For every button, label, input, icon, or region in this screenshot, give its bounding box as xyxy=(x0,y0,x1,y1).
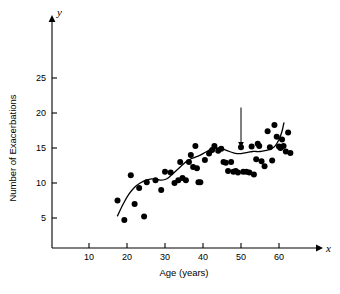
y-tick-label: 10 xyxy=(36,178,46,188)
data-point xyxy=(192,143,198,149)
y-axis-ticks: 510152025 xyxy=(36,73,57,223)
y-tick-label: 25 xyxy=(36,73,46,83)
data-point xyxy=(141,214,147,220)
data-point xyxy=(225,168,231,174)
x-tick-label: 50 xyxy=(236,252,246,262)
data-point xyxy=(251,172,257,178)
data-point xyxy=(285,130,291,136)
data-point xyxy=(256,143,262,149)
data-point xyxy=(287,150,293,156)
y-tick-label: 5 xyxy=(41,213,46,223)
data-point xyxy=(128,172,134,178)
x-tick-label: 20 xyxy=(122,252,132,262)
y-axis-arrowhead xyxy=(49,15,56,22)
x-axis-arrowhead xyxy=(316,245,323,252)
x-tick-label: 30 xyxy=(160,252,170,262)
y-tick-label: 20 xyxy=(36,108,46,118)
data-point xyxy=(132,201,138,207)
data-points-group xyxy=(115,122,294,223)
data-point xyxy=(235,170,241,176)
data-point xyxy=(158,187,164,193)
data-point xyxy=(228,159,234,165)
data-point xyxy=(121,217,127,223)
data-point xyxy=(262,163,268,169)
x-axis-letter: x xyxy=(325,242,331,254)
smoother-curve xyxy=(118,123,284,216)
data-point xyxy=(188,152,194,158)
data-point xyxy=(197,179,203,185)
x-tick-label: 10 xyxy=(84,252,94,262)
annotation-group xyxy=(238,108,244,149)
data-point xyxy=(269,158,275,164)
data-point xyxy=(253,156,259,162)
chart-figure: 102030405060 510152025 Age (years) Numbe… xyxy=(0,0,340,294)
data-point xyxy=(249,144,255,150)
data-point xyxy=(202,157,208,163)
x-axis-ticks: 102030405060 xyxy=(84,243,284,262)
data-point xyxy=(153,177,159,183)
data-point xyxy=(183,177,189,183)
x-tick-label: 40 xyxy=(198,252,208,262)
y-axis-title: Number of Exacerbations xyxy=(7,94,18,201)
data-point xyxy=(281,143,287,149)
data-point xyxy=(194,165,200,171)
data-point xyxy=(162,169,168,175)
x-tick-label: 60 xyxy=(274,252,284,262)
data-point xyxy=(271,122,277,128)
scatter-plot-svg: 102030405060 510152025 Age (years) Numbe… xyxy=(0,0,340,294)
y-tick-label: 15 xyxy=(36,143,46,153)
data-point xyxy=(223,160,229,166)
data-point xyxy=(115,198,121,204)
y-axis-letter: y xyxy=(56,6,62,18)
data-point xyxy=(265,128,271,134)
x-axis-title: Age (years) xyxy=(159,267,208,278)
